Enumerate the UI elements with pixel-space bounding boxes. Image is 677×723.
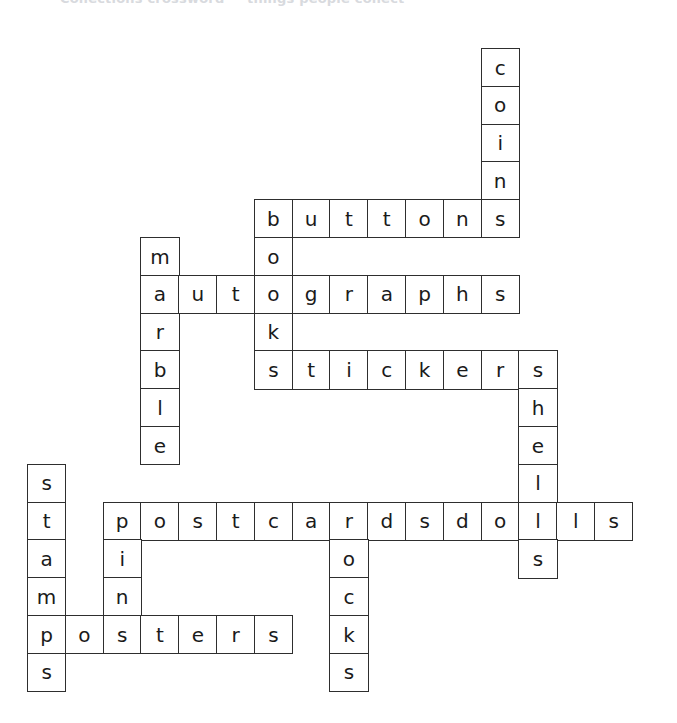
crossword-cell[interactable]: r: [329, 275, 368, 314]
cell-letter: i: [346, 360, 352, 380]
crossword-cell[interactable]: r: [329, 502, 368, 541]
crossword-cell[interactable]: a: [140, 275, 179, 314]
crossword-cell[interactable]: n: [103, 577, 142, 616]
crossword-cell[interactable]: o: [140, 502, 179, 541]
cell-letter: k: [343, 625, 355, 645]
crossword-cell[interactable]: s: [254, 615, 293, 654]
crossword-cell[interactable]: e: [140, 426, 179, 465]
crossword-cell[interactable]: e: [518, 426, 557, 465]
crossword-cell[interactable]: s: [594, 502, 633, 541]
crossword-cell[interactable]: e: [178, 615, 217, 654]
crossword-cell[interactable]: p: [103, 502, 142, 541]
cell-letter: p: [40, 625, 53, 645]
cell-letter: a: [154, 284, 166, 304]
crossword-cell[interactable]: s: [178, 502, 217, 541]
cell-letter: o: [267, 247, 279, 267]
crossword-cell[interactable]: k: [254, 313, 293, 352]
crossword-cell[interactable]: p: [27, 615, 66, 654]
cell-letter: p: [116, 511, 129, 531]
crossword-cell[interactable]: s: [27, 464, 66, 503]
crossword-cell[interactable]: s: [329, 653, 368, 692]
cell-letter: t: [43, 511, 51, 531]
crossword-cell[interactable]: s: [481, 275, 520, 314]
crossword-cell[interactable]: t: [367, 199, 406, 238]
crossword-cell[interactable]: m: [140, 237, 179, 276]
crossword-cell[interactable]: a: [27, 539, 66, 578]
crossword-cell[interactable]: r: [216, 615, 255, 654]
crossword-cell[interactable]: c: [481, 48, 520, 87]
crossword-cell[interactable]: r: [481, 350, 520, 389]
cell-letter: d: [456, 511, 469, 531]
crossword-cell[interactable]: c: [367, 350, 406, 389]
crossword-cell[interactable]: t: [27, 502, 66, 541]
crossword-cell[interactable]: t: [216, 275, 255, 314]
cell-letter: c: [268, 511, 279, 531]
crossword-cell[interactable]: o: [481, 502, 520, 541]
crossword-cell[interactable]: u: [178, 275, 217, 314]
cell-letter: l: [157, 398, 163, 418]
crossword-cell[interactable]: p: [405, 275, 444, 314]
crossword-cell[interactable]: d: [367, 502, 406, 541]
crossword-cell[interactable]: t: [140, 615, 179, 654]
crossword-cell[interactable]: s: [27, 653, 66, 692]
crossword-cell[interactable]: n: [481, 161, 520, 200]
cell-letter: b: [154, 360, 167, 380]
cell-letter: s: [117, 625, 127, 645]
crossword-cell[interactable]: s: [518, 350, 557, 389]
crossword-cell[interactable]: a: [367, 275, 406, 314]
cell-letter: m: [150, 247, 169, 267]
crossword-cell[interactable]: l: [140, 388, 179, 427]
crossword-cell[interactable]: r: [140, 313, 179, 352]
crossword-cell[interactable]: l: [556, 502, 595, 541]
crossword-cell[interactable]: o: [65, 615, 104, 654]
crossword-cell[interactable]: k: [329, 615, 368, 654]
cell-letter: e: [154, 436, 166, 456]
cell-letter: n: [116, 587, 129, 607]
crossword-cell[interactable]: o: [481, 86, 520, 125]
cell-letter: t: [232, 284, 240, 304]
crossword-cell[interactable]: a: [292, 502, 331, 541]
crossword-cell[interactable]: d: [443, 502, 482, 541]
crossword-cell[interactable]: t: [329, 199, 368, 238]
crossword-cell[interactable]: o: [329, 539, 368, 578]
crossword-cell[interactable]: i: [329, 350, 368, 389]
crossword-cell[interactable]: k: [405, 350, 444, 389]
crossword-cell[interactable]: u: [292, 199, 331, 238]
crossword-cell[interactable]: b: [254, 199, 293, 238]
crossword-cell[interactable]: b: [140, 350, 179, 389]
cell-letter: s: [193, 511, 203, 531]
crossword-cell[interactable]: l: [518, 502, 557, 541]
crossword-cell[interactable]: o: [254, 275, 293, 314]
crossword-cell[interactable]: o: [254, 237, 293, 276]
cell-letter: c: [495, 58, 506, 78]
crossword-cell[interactable]: s: [103, 615, 142, 654]
cell-letter: g: [305, 284, 318, 304]
crossword-cell[interactable]: l: [518, 464, 557, 503]
cell-letter: d: [380, 511, 393, 531]
crossword-cell[interactable]: s: [481, 199, 520, 238]
crossword-cell[interactable]: t: [292, 350, 331, 389]
cell-letter: e: [192, 625, 204, 645]
cell-letter: i: [497, 133, 503, 153]
crossword-cell[interactable]: t: [216, 502, 255, 541]
crossword-cell[interactable]: s: [405, 502, 444, 541]
crossword-cell[interactable]: s: [254, 350, 293, 389]
crossword-cell[interactable]: i: [481, 124, 520, 163]
crossword-cell[interactable]: i: [103, 539, 142, 578]
crossword-cell[interactable]: e: [443, 350, 482, 389]
crossword-cell[interactable]: c: [329, 577, 368, 616]
crossword-cell[interactable]: c: [254, 502, 293, 541]
crossword-cell[interactable]: o: [405, 199, 444, 238]
crossword-cell[interactable]: h: [443, 275, 482, 314]
crossword-cell[interactable]: g: [292, 275, 331, 314]
crossword-cell[interactable]: h: [518, 388, 557, 427]
crossword-cell[interactable]: n: [443, 199, 482, 238]
cell-letter: e: [456, 360, 468, 380]
cell-letter: a: [305, 511, 317, 531]
crossword-cell[interactable]: s: [518, 539, 557, 578]
cell-letter: s: [495, 284, 505, 304]
cell-letter: o: [418, 209, 430, 229]
crossword-cell[interactable]: m: [27, 577, 66, 616]
cell-letter: n: [494, 171, 507, 191]
cell-letter: t: [307, 360, 315, 380]
